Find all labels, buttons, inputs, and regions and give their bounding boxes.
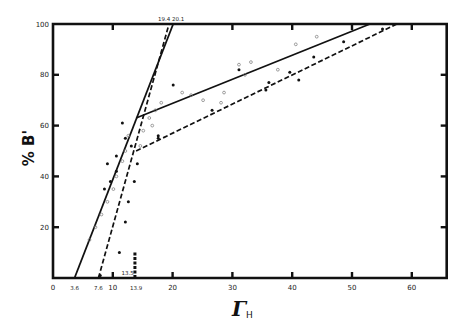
x-tick-label: 30 [228,284,237,292]
data-point-filled [342,40,345,43]
data-point-filled [118,251,121,254]
data-point-filled [124,137,127,140]
data-point-open [139,145,142,148]
data-point-open [106,200,109,203]
x-tick-label: 50 [348,284,357,292]
y-tick-label: 100 [36,21,49,29]
data-point-filled [103,188,106,191]
y-tick-label: 20 [40,224,49,232]
data-point-filled [211,109,214,112]
annotation-label: 7.6 [94,285,103,291]
annotation-label: 19.4 20.1 [158,16,184,22]
x-tick-label: 0 [51,284,55,292]
data-point-filled [106,162,109,165]
dashed-line [136,24,397,151]
data-point-filled [109,180,112,183]
x-tick-label: 20 [168,284,177,292]
x-axis-label-subscript: H [246,310,253,320]
data-point-filled [172,83,175,86]
data-point-open [202,99,205,102]
data-point-open [220,101,223,104]
data-point-filled [115,170,118,173]
axis-tick-labels: 010203040506020406080100 [36,21,417,293]
data-point-open [181,91,184,94]
chart-svg: 010203040506020406080100 3.67.613.913.51… [0,0,460,322]
data-point-filled [381,28,384,31]
y-tick-label: 40 [40,173,49,181]
data-point-open [100,213,103,216]
data-point-open [112,188,115,191]
data-point-filled [288,71,291,74]
data-point-open [160,101,163,104]
y-axis-label: % B' [20,130,38,166]
data-point-filled [264,89,267,92]
annotations-layer: 3.67.613.913.519.4 20.1 [70,16,184,291]
data-point-open [115,175,118,178]
data-point-open [294,43,297,46]
data-point-open [223,91,226,94]
data-point-open [315,35,318,38]
data-point-open [148,117,151,120]
data-point-filled [124,221,127,224]
markers-layer [88,28,384,277]
data-point-filled [267,81,270,84]
y-tick-label: 60 [40,122,49,130]
data-point-filled [130,144,133,147]
data-point-open [238,63,241,66]
data-point-open [276,68,279,71]
x-tick-label: 60 [407,284,416,292]
data-point-filled [115,155,118,158]
data-point-filled [237,68,240,71]
series-layer [75,24,397,278]
data-point-filled [136,162,139,165]
x-tick-label: 10 [108,284,117,292]
solid-line [136,24,370,118]
data-point-filled [127,200,130,203]
data-point-open [250,61,253,64]
data-point-filled [99,274,102,277]
annotation-label: 13.5 [122,270,135,276]
data-point-filled [297,78,300,81]
data-point-filled [157,134,160,137]
x-tick-label: 40 [288,284,297,292]
data-point-open [142,129,145,132]
annotation-label: 3.6 [70,285,79,291]
data-point-open [151,124,154,127]
y-tick-label: 80 [40,71,49,79]
annotation-label: 13.9 [130,285,143,291]
data-point-filled [121,122,124,125]
data-point-open [121,160,124,163]
data-point-filled [312,56,315,59]
data-point-filled [133,180,136,183]
